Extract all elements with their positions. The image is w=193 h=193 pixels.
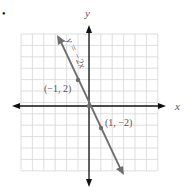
x-axis-label: x <box>174 100 180 112</box>
figure-marker: • <box>2 8 6 19</box>
y-axis-up-arrow-icon <box>86 25 92 33</box>
equation-label: y = −2x <box>64 35 89 70</box>
point-label-1-neg2: (1, −2) <box>105 117 132 129</box>
point-1-neg2 <box>99 126 103 130</box>
point-origin <box>87 104 91 108</box>
y-axis-label: y <box>84 7 90 19</box>
point-neg1-2 <box>76 78 80 82</box>
x-axis-right-arrow-icon <box>158 103 166 109</box>
point-label-neg1-2: (−1, 2) <box>44 83 71 95</box>
y-axis-down-arrow-icon <box>86 179 92 187</box>
x-axis-left-arrow-icon <box>12 103 20 109</box>
chart-canvas: • x y y = −2x (−1, 2) (1, −2) <box>0 0 193 193</box>
